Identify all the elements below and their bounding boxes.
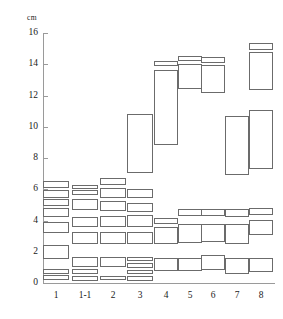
band — [249, 110, 273, 169]
band — [100, 232, 126, 244]
band — [127, 215, 153, 227]
band — [201, 255, 225, 270]
y-tick-label: 2 — [12, 247, 38, 257]
y-tick-mark — [44, 283, 48, 284]
band — [100, 178, 126, 185]
y-tick-mark — [44, 64, 48, 65]
band — [43, 269, 69, 275]
band — [127, 232, 153, 244]
band — [154, 61, 178, 66]
band — [72, 257, 98, 266]
band — [178, 258, 202, 271]
band — [249, 52, 273, 90]
band — [178, 209, 202, 216]
band — [225, 224, 249, 244]
band — [100, 188, 126, 198]
band — [178, 64, 202, 90]
y-tick-label: 8 — [12, 153, 38, 163]
band — [43, 208, 69, 217]
band — [249, 43, 273, 50]
y-tick-label: 4 — [12, 216, 38, 226]
band — [127, 257, 153, 261]
band — [72, 190, 98, 195]
band — [127, 270, 153, 275]
x-axis-line — [43, 283, 275, 284]
band — [249, 208, 273, 215]
band — [72, 199, 98, 210]
band — [72, 232, 98, 244]
band — [72, 217, 98, 228]
y-axis-unit-label: cm — [27, 14, 37, 22]
band — [249, 220, 273, 236]
band — [154, 258, 178, 271]
band — [127, 203, 153, 212]
band — [100, 201, 126, 211]
band — [100, 276, 126, 280]
band — [100, 216, 126, 228]
band — [43, 222, 69, 233]
band — [178, 224, 202, 243]
band — [127, 263, 153, 269]
band — [154, 227, 178, 244]
band — [201, 224, 225, 243]
band — [72, 269, 98, 275]
y-tick-label: 16 — [12, 28, 38, 38]
y-tick-mark — [44, 33, 48, 34]
y-tick-mark — [44, 96, 48, 97]
y-tick-label: 0 — [12, 278, 38, 288]
band — [43, 190, 69, 198]
band — [225, 209, 249, 217]
band — [201, 65, 225, 93]
band — [225, 258, 249, 274]
band — [127, 189, 153, 198]
band — [72, 185, 98, 189]
band — [43, 181, 69, 189]
band — [127, 114, 153, 173]
band — [43, 275, 69, 280]
band — [43, 245, 69, 260]
band — [72, 276, 98, 281]
band — [201, 209, 225, 216]
band — [154, 70, 178, 145]
band — [249, 258, 273, 272]
band — [43, 199, 69, 206]
y-tick-mark — [44, 127, 48, 128]
band — [127, 276, 153, 281]
y-tick-label: 14 — [12, 59, 38, 69]
band-diagram-figure: cm 0246810121416 11-12345678 — [0, 0, 283, 319]
band — [178, 56, 202, 62]
band — [100, 257, 126, 267]
y-tick-label: 10 — [12, 122, 38, 132]
band — [225, 116, 249, 175]
band — [154, 218, 178, 224]
band — [201, 57, 225, 63]
x-tick-label-lane-8: 8 — [241, 290, 281, 300]
y-tick-label: 12 — [12, 91, 38, 101]
y-tick-label: 6 — [12, 184, 38, 194]
y-tick-mark — [44, 158, 48, 159]
